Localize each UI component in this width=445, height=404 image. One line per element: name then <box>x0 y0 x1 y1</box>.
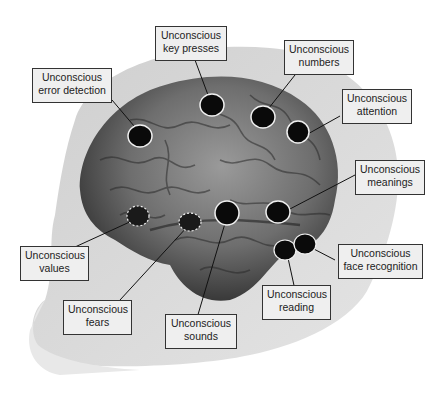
label-face-recognition: Unconscious face recognition <box>338 244 423 279</box>
label-line2: error detection <box>37 84 107 97</box>
label-line2: sounds <box>170 330 232 343</box>
marker-meanings <box>266 201 290 223</box>
label-line1: Unconscious <box>347 92 407 105</box>
label-line2: fears <box>68 316 127 329</box>
label-line1: Unconscious <box>267 288 326 301</box>
label-error-detection: Unconscious error detection <box>32 68 112 103</box>
marker-face-recognition <box>294 234 316 254</box>
label-values: Unconscious values <box>20 246 89 281</box>
label-line1: Unconscious <box>170 317 232 330</box>
label-line1: Unconscious <box>289 43 349 56</box>
marker-error-detection <box>128 125 152 147</box>
label-line2: attention <box>347 105 407 118</box>
label-line2: values <box>25 262 84 275</box>
label-line1: Unconscious <box>68 303 127 316</box>
label-line1: Unconscious <box>343 247 418 260</box>
marker-sounds <box>215 201 239 225</box>
label-line2: reading <box>267 301 326 314</box>
label-line1: Unconscious <box>160 29 222 42</box>
label-fears: Unconscious fears <box>63 300 132 335</box>
marker-attention <box>287 121 309 143</box>
label-line1: Unconscious <box>25 249 84 262</box>
label-sounds: Unconscious sounds <box>165 314 237 349</box>
label-line1: Unconscious <box>37 71 107 84</box>
marker-key-presses <box>200 94 224 116</box>
label-line2: face recognition <box>343 260 418 273</box>
label-line2: meanings <box>360 176 420 189</box>
label-key-presses: Unconscious key presses <box>155 26 227 61</box>
label-meanings: Unconscious meanings <box>355 160 425 195</box>
label-numbers: Unconscious numbers <box>284 40 354 75</box>
marker-values <box>127 206 149 226</box>
label-line1: Unconscious <box>360 163 420 176</box>
marker-reading <box>274 240 296 260</box>
label-reading: Unconscious reading <box>262 285 331 320</box>
label-attention: Unconscious attention <box>342 89 412 124</box>
marker-numbers <box>251 106 275 128</box>
marker-fears <box>179 213 201 231</box>
label-line2: numbers <box>289 56 349 69</box>
label-line2: key presses <box>160 42 222 55</box>
